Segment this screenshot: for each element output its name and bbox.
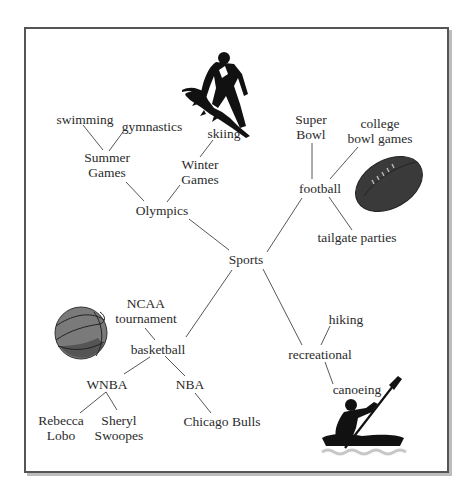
node-tailgate-parties: tailgate parties: [317, 230, 396, 245]
node-college-bowl-games-line1: college: [348, 116, 413, 131]
node-winter-games: Winter Games: [181, 157, 219, 187]
node-ncaa-tournament: NCAA tournament: [115, 296, 176, 326]
node-sports: Sports: [229, 252, 264, 267]
node-sheryl-swoopes: Sheryl Swoopes: [95, 413, 144, 443]
node-swimming: swimming: [56, 112, 113, 127]
node-super-bowl-line1: Super: [295, 112, 327, 127]
node-football: football: [299, 181, 341, 196]
football-icon: [346, 145, 432, 223]
node-summer-games: Summer Games: [84, 150, 130, 180]
node-winter-games-line1: Winter: [181, 157, 219, 172]
node-wnba: WNBA: [86, 377, 127, 392]
node-skiing: skiing: [207, 126, 240, 141]
node-sheryl-swoopes-line2: Swoopes: [95, 428, 144, 443]
node-rebecca-lobo-line2: Lobo: [38, 428, 84, 443]
node-college-bowl-games-line2: bowl games: [348, 131, 413, 146]
node-hiking: hiking: [329, 312, 364, 327]
node-nba: NBA: [176, 377, 205, 392]
node-ncaa-tournament-line1: NCAA: [115, 296, 176, 311]
node-super-bowl: Super Bowl: [295, 112, 327, 142]
node-summer-games-line2: Games: [84, 165, 130, 180]
node-chicago-bulls: Chicago Bulls: [184, 414, 261, 429]
node-rebecca-lobo-line1: Rebecca: [38, 413, 84, 428]
node-basketball: basketball: [131, 342, 186, 357]
node-summer-games-line1: Summer: [84, 150, 130, 165]
node-olympics: Olympics: [136, 203, 189, 218]
node-rebecca-lobo: Rebecca Lobo: [38, 413, 84, 443]
node-recreational: recreational: [288, 347, 352, 362]
node-canoeing: canoeing: [333, 382, 382, 397]
node-winter-games-line2: Games: [181, 172, 219, 187]
node-gymnastics: gymnastics: [122, 119, 183, 134]
node-ncaa-tournament-line2: tournament: [115, 311, 176, 326]
node-sheryl-swoopes-line1: Sheryl: [95, 413, 144, 428]
basketball-icon: [55, 307, 107, 359]
node-college-bowl-games: college bowl games: [348, 116, 413, 146]
node-super-bowl-line2: Bowl: [295, 127, 327, 142]
